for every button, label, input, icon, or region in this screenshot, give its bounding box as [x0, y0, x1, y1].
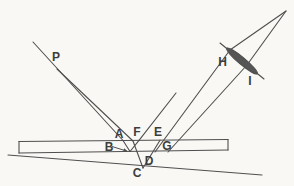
label-G: G: [162, 139, 171, 153]
lens-ellipse: [224, 45, 259, 76]
label-F: F: [133, 125, 140, 139]
segment-converging-ray-from-H: [230, 11, 286, 50]
segment-ray-2-through-plate-to-C: [133, 141, 143, 168]
b-pointer-arrowhead: [123, 148, 128, 152]
label-P: P: [52, 50, 60, 64]
label-H: H: [218, 55, 227, 69]
label-E: E: [154, 125, 162, 139]
lens-shape: [224, 45, 259, 76]
segment-ray-G-to-lens: [168, 65, 247, 152]
label-C: C: [133, 166, 142, 180]
label-D: D: [145, 154, 154, 168]
label-B: B: [105, 140, 114, 154]
segment-incident-ray-1-from-P: [33, 42, 123, 141]
segment-converging-ray-from-I: [247, 11, 286, 65]
label-A: A: [115, 127, 124, 141]
ray-segments: [8, 11, 286, 175]
label-I: I: [248, 74, 251, 88]
optics-interference-diagram: P A F E B G D C H I: [0, 0, 294, 186]
